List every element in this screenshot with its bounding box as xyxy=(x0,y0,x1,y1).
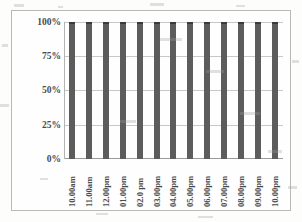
y-axis-tick-labels: 100% 75% 50% 25% 0% xyxy=(20,0,61,222)
x-label-slot: 04.00pm xyxy=(165,161,182,207)
bar xyxy=(221,22,227,159)
bar-slot xyxy=(216,22,233,159)
bar-slot xyxy=(81,22,98,159)
x-tick-label: 09.00pm xyxy=(253,163,263,207)
efficiency-bar-chart: Efficiency 100% 75% 50% 25% 0% 10.00am11… xyxy=(0,0,302,222)
bar xyxy=(86,22,92,159)
x-tick-label: 10.00am xyxy=(67,163,77,207)
x-tick-label: 04.00pm xyxy=(168,163,178,207)
y-tick-label: 0% xyxy=(27,154,61,164)
x-label-slot: 01.00pm xyxy=(115,161,132,207)
bar-slot xyxy=(232,22,249,159)
bar xyxy=(272,22,278,159)
x-label-slot: 10.00pm xyxy=(266,161,283,207)
bar-slot xyxy=(266,22,283,159)
x-label-slot: 09.00pm xyxy=(249,161,266,207)
x-tick-label: 12.00pm xyxy=(101,163,111,207)
bar-slot xyxy=(64,22,81,159)
x-label-slot: 08.00pm xyxy=(232,161,249,207)
bar xyxy=(204,22,210,159)
bar xyxy=(120,22,126,159)
x-tick-label: 05.00pm xyxy=(185,163,195,207)
x-label-slot: 03.00pm xyxy=(148,161,165,207)
x-tick-label: 02.0 pm xyxy=(135,163,145,207)
bar-slot xyxy=(249,22,266,159)
y-tick-label: 25% xyxy=(27,120,61,130)
bar xyxy=(69,22,75,159)
x-tick-label: 01.00pm xyxy=(118,163,128,207)
y-tick-label: 100% xyxy=(27,17,61,27)
bar xyxy=(137,22,143,159)
bar xyxy=(170,22,176,159)
x-tick-label: 07.00pm xyxy=(219,163,229,207)
x-label-slot: 10.00am xyxy=(64,161,81,207)
x-tick-label: 06.00pm xyxy=(202,163,212,207)
bar-slot xyxy=(148,22,165,159)
plot-area xyxy=(64,22,283,159)
bar-slot xyxy=(182,22,199,159)
bar xyxy=(103,22,109,159)
bar xyxy=(255,22,261,159)
y-tick-label: 75% xyxy=(27,51,61,61)
x-tick-label: 03.00pm xyxy=(152,163,162,207)
x-label-slot: 06.00pm xyxy=(199,161,216,207)
bar-series xyxy=(64,22,283,159)
bar-slot xyxy=(115,22,132,159)
x-tick-label: 11.00am xyxy=(84,163,94,207)
bar-slot xyxy=(199,22,216,159)
bar xyxy=(187,22,193,159)
bar xyxy=(238,22,244,159)
x-label-slot: 07.00pm xyxy=(216,161,233,207)
x-tick-label: 08.00pm xyxy=(236,163,246,207)
y-tick-label: 50% xyxy=(27,85,61,95)
bar-slot xyxy=(165,22,182,159)
x-label-slot: 11.00am xyxy=(81,161,98,207)
x-label-slot: 05.00pm xyxy=(182,161,199,207)
bar xyxy=(154,22,160,159)
x-label-slot: 02.0 pm xyxy=(131,161,148,207)
x-axis-tick-labels: 10.00am11.00am12.00pm01.00pm02.0 pm03.00… xyxy=(64,161,283,207)
x-label-slot: 12.00pm xyxy=(98,161,115,207)
bar-slot xyxy=(98,22,115,159)
x-tick-label: 10.00pm xyxy=(270,163,280,207)
bar-slot xyxy=(131,22,148,159)
